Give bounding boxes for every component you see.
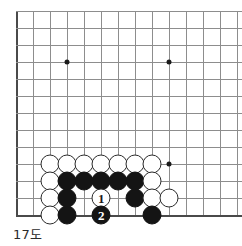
star-point bbox=[65, 60, 70, 65]
stone-black-move-2[interactable]: 2 bbox=[92, 206, 111, 225]
grid-line-horizontal bbox=[16, 11, 242, 12]
grid-line-horizontal bbox=[16, 130, 242, 131]
diagram-caption: 17도 bbox=[13, 224, 42, 243]
stone-black[interactable] bbox=[143, 206, 162, 225]
stone-white[interactable] bbox=[160, 189, 179, 208]
stone-black[interactable] bbox=[58, 206, 77, 225]
grid-line-horizontal bbox=[16, 79, 242, 80]
grid-line-horizontal bbox=[16, 28, 242, 29]
grid-line-horizontal bbox=[16, 62, 242, 63]
diagram-root: 12 17도 bbox=[0, 0, 242, 246]
star-point bbox=[167, 60, 172, 65]
stone-move-number: 2 bbox=[98, 209, 104, 222]
go-board[interactable]: 12 bbox=[0, 0, 242, 246]
stone-move-number: 1 bbox=[98, 192, 104, 205]
star-point bbox=[167, 162, 172, 167]
grid-line-horizontal bbox=[16, 96, 242, 97]
grid-line-horizontal bbox=[16, 113, 242, 114]
grid-line-horizontal bbox=[16, 45, 242, 46]
grid-line-horizontal bbox=[16, 147, 242, 148]
